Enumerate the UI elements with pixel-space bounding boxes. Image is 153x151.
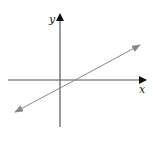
plotted-line-lower xyxy=(15,79,77,112)
plotted-line xyxy=(77,45,140,79)
x-axis-label: x xyxy=(139,83,146,96)
y-axis-label: y xyxy=(48,13,56,26)
coordinate-plane: y x xyxy=(0,0,153,151)
